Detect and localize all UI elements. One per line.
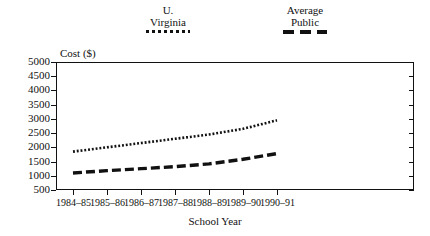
y-axis-tick-label: 2500 <box>16 127 50 138</box>
y-axis-tick-label: 5000 <box>16 56 50 67</box>
chart-plot-area: Cost ($) 5000450040003500300025002000150… <box>0 0 430 236</box>
data-series-layer <box>73 120 277 173</box>
chart-figure: U. Virginia Average Public Cost ($) 5000… <box>0 0 430 236</box>
y-axis-tick-label: 3000 <box>16 113 50 124</box>
y-axis-tick-label: 500 <box>16 184 50 195</box>
y-axis-tick-label: 1500 <box>16 156 50 167</box>
x-axis-ticks <box>74 190 278 195</box>
x-axis-title: School Year <box>0 215 430 227</box>
y-axis-tick-label: 4000 <box>16 84 50 95</box>
x-axis-tick-label: 1990–91 <box>250 197 306 208</box>
y-axis-title: Cost ($) <box>60 47 96 59</box>
series-line-average-public <box>73 154 277 173</box>
y-axis-tick-label: 4500 <box>16 70 50 81</box>
plot-frame <box>57 63 414 190</box>
y-axis-tick-label: 2000 <box>16 141 50 152</box>
y-axis-tick-label: 1000 <box>16 170 50 181</box>
series-line-u-virginia <box>73 120 277 151</box>
y-axis-tick-label: 3500 <box>16 99 50 110</box>
